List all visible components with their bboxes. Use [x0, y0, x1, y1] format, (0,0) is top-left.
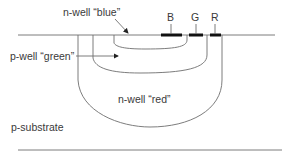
triple-well-diagram: B G R n-well “blue” p-well “green” n-wel…: [0, 0, 292, 160]
n-well-blue-boundary: [114, 35, 187, 49]
n-well-blue-arrow: [115, 19, 128, 33]
contact-g-label: G: [191, 11, 199, 23]
contact-b-label: B: [167, 11, 174, 23]
p-substrate-label: p-substrate: [11, 121, 64, 133]
contact-r-label: R: [211, 11, 219, 23]
n-well-red-label: n-well “red”: [118, 93, 171, 105]
p-well-green-label: p-well “green”: [10, 50, 75, 62]
p-well-green-boundary: [93, 35, 207, 73]
n-well-blue-label: n-well “blue”: [63, 6, 121, 18]
